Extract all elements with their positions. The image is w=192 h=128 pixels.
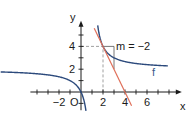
y-axis-arrow-icon (79, 21, 84, 27)
f-curve-label: f (152, 66, 156, 78)
slope-label: m = −2 (116, 40, 150, 52)
x-axis-label: x (180, 100, 186, 112)
x-tick-label: 2 (100, 96, 106, 108)
origin-label: O (70, 96, 79, 108)
x-tick-label: 6 (144, 96, 150, 108)
y-tick-label: 4 (69, 40, 75, 52)
x-tick-label: −2 (53, 96, 66, 108)
y-tick-label: 2 (69, 63, 75, 75)
curves-layer (1, 25, 168, 111)
guides-layer (81, 46, 114, 92)
x-tick-label: 4 (122, 96, 128, 108)
chart: x y O m = −2 f −224624 (0, 0, 192, 128)
x-axis-arrow-icon (176, 90, 182, 95)
y-axis-label: y (70, 11, 76, 23)
dashed-guide-lines (81, 46, 103, 92)
